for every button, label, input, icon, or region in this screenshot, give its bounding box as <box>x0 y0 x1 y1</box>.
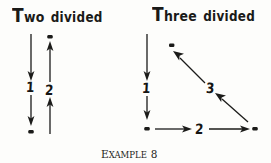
terminal-dot-bottom-left-triangle <box>144 127 149 130</box>
terminal-dot-top-left-panel <box>47 35 52 38</box>
arrow-diag-3b-shaft <box>222 99 248 122</box>
terminal-dot-bottom-right-triangle <box>252 127 257 130</box>
terminal-dot-apex <box>169 44 174 47</box>
arrow-diag-3a-head <box>173 51 184 60</box>
step-label-2-left-panel: 2 <box>45 82 54 99</box>
terminal-dot-bottom-left <box>28 130 33 133</box>
caption-rest: XAMPLE <box>109 150 147 160</box>
figure-caption: EXAMPLE8 <box>101 143 158 162</box>
figure-page: Twodivided Threedivided <box>0 0 271 163</box>
step-label-2-right-panel: 2 <box>195 121 204 138</box>
arrow-diag-3a-shaft <box>180 58 205 83</box>
step-label-3-right-panel: 3 <box>206 80 215 97</box>
step-label-1-right-panel: 1 <box>142 80 151 97</box>
caption-number: 8 <box>151 148 158 160</box>
caption-lead: E <box>101 148 109 160</box>
step-label-1-left-panel: 1 <box>26 79 35 96</box>
diagram-canvas <box>0 0 271 163</box>
